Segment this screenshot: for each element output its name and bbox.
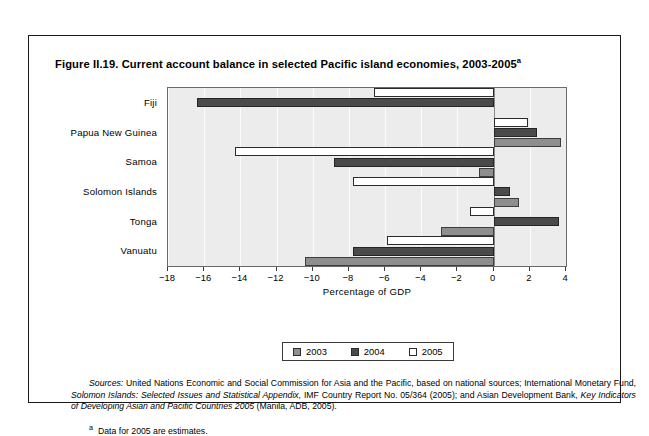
bar-vanuatu-2004 [353,247,494,256]
x-axis-tick [529,267,530,271]
grid-line [313,88,314,266]
y-axis-category-labels: FijiPapua New GuineaSamoaSolomon Islands… [55,87,163,267]
footnote-mark: a [89,423,93,432]
x-axis-tick-label: −18 [159,272,175,283]
legend-item-2004: 2004 [351,346,385,357]
x-axis-tick-label: 4 [562,272,567,283]
x-axis-tick [456,267,457,271]
bar-papua-new-guinea-2005 [494,118,528,127]
y-axis-label-samoa: Samoa [126,156,157,167]
bar-samoa-2005 [235,147,494,156]
bar-tonga-2004 [494,217,559,226]
x-axis-tick [276,267,277,271]
grid-line [277,88,278,266]
sources-italic-1: Solomon Islands: Selected Issues and Sta… [71,390,301,400]
legend-swatch-2003 [293,348,301,356]
figure-notes: Sources: United Nations Economic and Soc… [71,378,636,436]
bar-solomon-islands-2005 [353,177,494,186]
x-axis-tick-label: −2 [451,272,462,283]
x-axis-tick-label: −16 [195,272,211,283]
x-axis-tick [565,267,566,271]
grid-line [204,88,205,266]
legend-swatch-2004 [351,348,359,356]
x-axis-tick [384,267,385,271]
legend-swatch-2005 [409,348,417,356]
sources-text-1: United Nations Economic and Social Commi… [123,378,636,388]
x-axis-tick-label: −12 [268,272,284,283]
x-axis-title: Percentage of GDP [167,286,567,297]
bar-papua-new-guinea-2004 [494,128,537,137]
x-axis-tick [493,267,494,271]
bar-papua-new-guinea-2003 [494,138,561,147]
x-axis-tick [348,267,349,271]
bar-samoa-2004 [334,158,493,167]
x-axis-tick-label: −4 [415,272,426,283]
footnote-a: aData for 2005 are estimates. [71,422,636,436]
figure-title: Figure II.19. Current account balance in… [55,56,600,70]
footnote-text: Data for 2005 are estimates. [98,426,208,436]
grid-line [240,88,241,266]
x-axis-tick-label: 2 [526,272,531,283]
x-axis-tick [203,267,204,271]
chart-legend: 200320042005 [282,342,454,361]
figure-title-text: Figure II.19. Current account balance in… [55,58,517,70]
figure-title-footnote-mark: a [517,56,521,65]
bar-solomon-islands-2004 [494,187,510,196]
bar-samoa-2003 [479,168,493,177]
chart-plot-wrapper: FijiPapua New GuineaSamoaSolomon Islands… [55,87,595,302]
y-axis-label-vanuatu: Vanuatu [121,245,157,256]
legend-label-2005: 2005 [422,346,443,357]
bar-tonga-2005 [470,207,494,216]
x-axis-tick-label: −8 [343,272,354,283]
x-axis-tick-label: −6 [379,272,390,283]
chart-plot-area [167,87,567,267]
x-axis-tick [312,267,313,271]
x-axis-tick-label: 0 [490,272,495,283]
bar-fiji-2005 [374,88,493,97]
x-axis-tick [420,267,421,271]
sources-note: Sources: United Nations Economic and Soc… [71,378,636,413]
y-axis-label-fiji: Fiji [144,96,157,107]
legend-label-2004: 2004 [364,346,385,357]
bar-vanuatu-2005 [387,236,494,245]
figure-page: Figure II.19. Current account balance in… [0,0,649,436]
x-axis-tick [239,267,240,271]
figure-frame: Figure II.19. Current account balance in… [28,35,621,403]
bar-fiji-2004 [197,98,494,107]
grid-line [349,88,350,266]
grid-line [566,88,567,266]
legend-item-2003: 2003 [293,346,327,357]
x-axis-tick-label: −10 [304,272,320,283]
zero-line [494,88,495,266]
bar-vanuatu-2003 [305,257,493,266]
bar-tonga-2003 [441,227,493,236]
legend-item-2005: 2005 [409,346,443,357]
sources-label: Sources: [89,378,123,388]
legend-label-2003: 2003 [306,346,327,357]
grid-line [168,88,169,266]
x-axis-tick-label: −14 [231,272,247,283]
y-axis-label-papua-new-guinea: Papua New Guinea [71,126,157,137]
y-axis-label-solomon-islands: Solomon Islands [83,185,157,196]
bar-solomon-islands-2003 [494,198,519,207]
sources-text-2: IMF Country Report No. 05/364 (2005); an… [301,390,580,400]
grid-line [530,88,531,266]
sources-text-3: (Manila, ADB, 2005). [254,401,337,411]
y-axis-label-tonga: Tonga [130,215,157,226]
x-axis-tick [167,267,168,271]
